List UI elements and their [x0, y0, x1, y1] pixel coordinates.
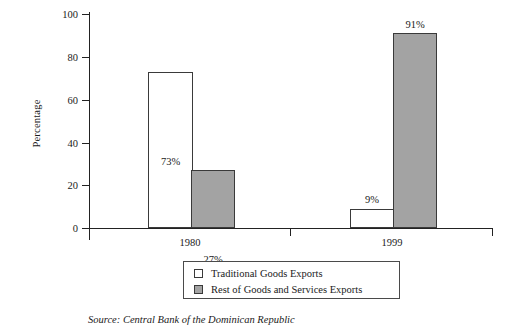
- x-axis-line: [89, 228, 493, 229]
- y-axis-tick-label-100: 100: [52, 9, 78, 20]
- source-note: Source: Central Bank of the Dominican Re…: [88, 314, 295, 326]
- bar-1980-rest-of-goods-and-services-exports: [191, 170, 235, 228]
- legend-label-traditional-goods-exports: Traditional Goods Exports: [211, 268, 323, 280]
- y-axis-tick-label-40: 40: [52, 138, 78, 149]
- bar-1999-rest-of-goods-and-services-exports: [393, 33, 437, 228]
- bar-1980-traditional-goods-exports: [148, 72, 193, 228]
- bar-1999-traditional-goods-exports: [350, 209, 394, 228]
- plot-area: 73% 27% 9% 91%: [89, 14, 493, 228]
- chart-legend: Traditional Goods Exports Rest of Goods …: [183, 261, 400, 299]
- y-axis-tick-label-20: 20: [52, 180, 78, 191]
- x-axis-category-label-1980: 1980: [150, 237, 230, 249]
- legend-item-rest-of-goods-and-services-exports: Rest of Goods and Services Exports: [194, 282, 399, 297]
- bar-chart-figure: 100 80 60 40 20 0 Percentage 1980 1999 7…: [0, 0, 515, 332]
- y-axis-tick-label-60: 60: [52, 95, 78, 106]
- legend-item-traditional-goods-exports: Traditional Goods Exports: [194, 266, 399, 281]
- y-axis-tick-label-80: 80: [52, 52, 78, 63]
- bar-value-1999-rest: 91%: [393, 19, 437, 30]
- legend-swatch-white-icon: [194, 269, 203, 278]
- x-axis-tick-right-end: [492, 228, 493, 236]
- bar-value-1980-traditional: 73%: [149, 156, 193, 167]
- legend-label-rest-of-goods-and-services-exports: Rest of Goods and Services Exports: [211, 284, 362, 296]
- x-axis-tick-group-divider: [290, 228, 291, 236]
- legend-swatch-shaded-icon: [194, 285, 203, 294]
- bar-value-1999-traditional: 9%: [350, 194, 394, 205]
- y-axis-title: Percentage: [31, 79, 42, 169]
- x-axis-category-label-1999: 1999: [352, 237, 432, 249]
- y-axis-tick-label-0: 0: [52, 223, 78, 234]
